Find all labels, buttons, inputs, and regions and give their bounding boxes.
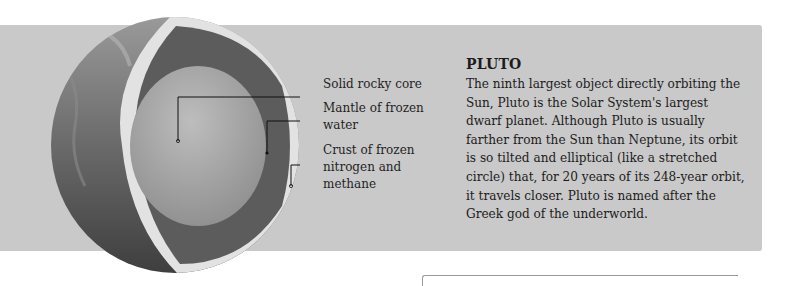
info-title: PLUTO <box>466 56 746 72</box>
callout-crust: Crust of frozen nitrogen and methane <box>323 142 423 193</box>
next-box-outline <box>422 275 738 286</box>
callout-mantle: Mantle of frozen water <box>323 100 433 134</box>
info-text-block: PLUTO The ninth largest object directly … <box>466 56 746 224</box>
pluto-cutaway-illustration <box>50 16 300 274</box>
info-body: The ninth largest object directly orbiti… <box>466 75 746 224</box>
callout-core: Solid rocky core <box>323 76 422 93</box>
